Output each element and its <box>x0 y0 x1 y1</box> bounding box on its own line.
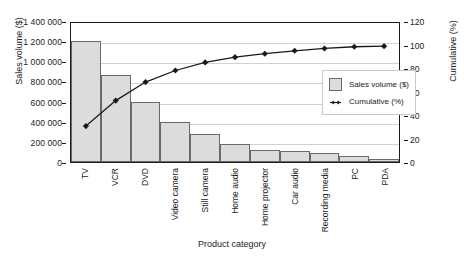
y-axis-left-tick-mark <box>62 163 66 164</box>
x-axis-category: PC <box>340 166 370 246</box>
y-axis-left-tick-mark <box>62 22 66 23</box>
y-axis-left-tick-mark <box>62 103 66 104</box>
x-axis-category-label: DVD <box>140 168 150 186</box>
legend-item-sales-volume: Sales volume ($) <box>329 76 409 93</box>
x-axis-category-label: Still camera <box>200 168 210 212</box>
chart-legend: Sales volume ($) Cumulative (%) <box>322 70 416 115</box>
x-axis-category-label: Recording media <box>320 168 330 232</box>
x-axis-category: DVD <box>130 166 160 246</box>
cumulative-data-point <box>232 54 238 60</box>
y-axis-left-title: Sales volume ($) <box>14 0 24 116</box>
x-axis-category-label: Video camera <box>170 168 180 220</box>
x-axis-category: Recording media <box>310 166 340 246</box>
y-axis-left: 0200 000400 000600 000800 0001 000 0001 … <box>0 22 66 163</box>
y-axis-left-tick-mark <box>62 123 66 124</box>
x-axis-category-label: VCR <box>110 168 120 186</box>
x-axis-title: Product category <box>0 239 464 249</box>
x-axis-category: Still camera <box>190 166 220 246</box>
y-axis-left-tick-label: 1 200 000 <box>23 37 62 47</box>
y-axis-left-tick-label: 400 000 <box>31 118 62 128</box>
y-axis-right-tick-label: 20 <box>410 135 419 145</box>
y-axis-right-tick-mark <box>404 46 408 47</box>
x-axis-category-label: Home audio <box>230 168 240 214</box>
x-axis-category-label: TV <box>80 168 90 179</box>
cumulative-data-point <box>262 51 268 57</box>
y-axis-right-tick-mark <box>404 140 408 141</box>
y-axis-left-tick-label: 800 000 <box>31 77 62 87</box>
cumulative-data-point <box>202 59 208 65</box>
y-axis-right-tick-mark <box>404 116 408 117</box>
y-axis-left-tick-label: 1 000 000 <box>23 57 62 67</box>
y-axis-right-tick-mark <box>404 22 408 23</box>
cumulative-data-point <box>172 67 178 73</box>
x-axis-categories: TVVCRDVDVideo cameraStill cameraHome aud… <box>70 166 400 246</box>
y-axis-left-tick-mark <box>62 82 66 83</box>
cumulative-data-point <box>381 43 387 49</box>
cumulative-data-point <box>142 79 148 85</box>
cumulative-data-point <box>321 45 327 51</box>
x-axis-category: VCR <box>100 166 130 246</box>
legend-line-diamond-icon <box>329 95 342 108</box>
y-axis-left-tick-mark <box>62 143 66 144</box>
y-axis-left-tick-mark <box>62 62 66 63</box>
x-axis-category-label: PDA <box>380 168 390 185</box>
x-axis-category: Home audio <box>220 166 250 246</box>
cumulative-data-point <box>351 44 357 50</box>
y-axis-left-tick-label: 200 000 <box>31 138 62 148</box>
y-axis-left-tick-label: 1 400 000 <box>23 17 62 27</box>
x-axis-category: TV <box>70 166 100 246</box>
x-axis-category: PDA <box>370 166 400 246</box>
legend-item-cumulative: Cumulative (%) <box>329 93 409 110</box>
y-axis-right-tick-label: 0 <box>410 158 415 168</box>
legend-swatch-icon <box>329 78 342 91</box>
cumulative-data-point <box>292 48 298 54</box>
y-axis-right-tick-mark <box>404 163 408 164</box>
x-axis-category: Home projector <box>250 166 280 246</box>
pareto-chart: 0200 000400 000600 000800 0001 000 0001 … <box>0 0 464 265</box>
y-axis-left-tick-label: 600 000 <box>31 98 62 108</box>
x-axis-category-label: Home projector <box>260 168 270 226</box>
x-axis-category-label: Car audio <box>290 168 300 205</box>
y-axis-right-tick-label: 100 <box>410 41 424 51</box>
x-axis-category: Car audio <box>280 166 310 246</box>
x-axis-category: Video camera <box>160 166 190 246</box>
y-axis-right-title: Cumulative (%) <box>448 0 458 116</box>
legend-label-sales-volume: Sales volume ($) <box>349 80 409 89</box>
legend-label-cumulative: Cumulative (%) <box>349 97 404 106</box>
y-axis-right-tick-label: 120 <box>410 17 424 27</box>
y-axis-left-tick-mark <box>62 42 66 43</box>
x-axis-category-label: PC <box>350 168 360 180</box>
